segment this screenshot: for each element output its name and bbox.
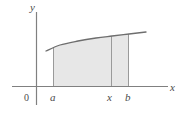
area-under-curve-figure: y x 0 a x b — [0, 0, 183, 117]
tick-label-x: x — [106, 91, 112, 103]
origin-label: 0 — [24, 92, 29, 103]
tick-label-a: a — [50, 91, 56, 103]
shaded-area-under-curve — [54, 34, 129, 86]
x-axis-label: x — [169, 81, 175, 93]
tick-label-b: b — [125, 91, 131, 103]
y-axis-label: y — [29, 1, 35, 13]
figure-container: y x 0 a x b — [0, 0, 183, 117]
